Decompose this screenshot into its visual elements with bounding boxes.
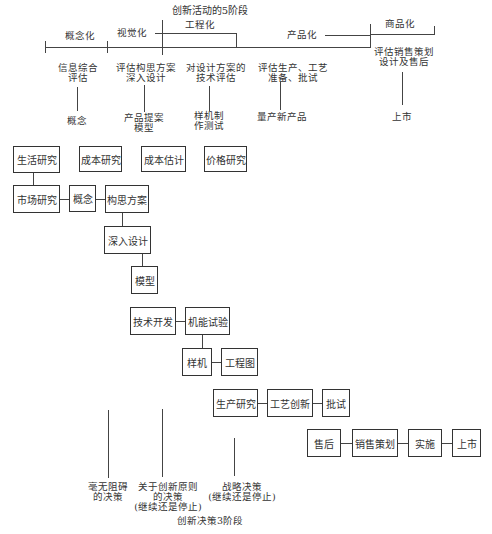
timeline-title: 创新活动的5阶段: [150, 6, 270, 16]
connector-prototype-drawing: [212, 362, 221, 363]
box-cost-estimate: 成本估计: [141, 146, 186, 172]
box-life-research: 生活研究: [13, 146, 60, 173]
decision-label-2: 关于创新原则 的决策 (继续还是停止): [133, 482, 203, 512]
activity-top-5: 评估销售策划 设计及售后: [368, 47, 440, 67]
decisions-title: 创新决策3阶段: [170, 516, 250, 526]
phase-label-visual: 视觉化: [112, 28, 152, 38]
connector-process-trial: [313, 403, 322, 404]
commercial-bracket-end: [434, 26, 435, 35]
activity-connector-1: [77, 87, 78, 111]
engineering-bracket-top: [162, 33, 236, 34]
commercial-bracket: [370, 34, 435, 35]
box-prototype: 样机: [182, 348, 212, 376]
connector-function-prototype: [202, 335, 203, 348]
connector-production-process: [258, 403, 267, 404]
box-after-sales: 售后: [307, 429, 341, 457]
activity-connector-4: [280, 82, 281, 110]
timeline-tick-3: [162, 20, 163, 55]
decision-label-1: 毫无阻碍 的决策: [80, 482, 136, 502]
activity-bottom-4: 量产新产品: [252, 112, 312, 122]
box-launch: 上市: [452, 429, 481, 457]
connector-market-concept: [60, 199, 69, 200]
timeline-tick-2: [107, 41, 108, 53]
connector-concept-plan: [96, 199, 105, 200]
connector-deep-model: [142, 254, 143, 266]
production-line: [295, 47, 370, 48]
activity-connector-2: [144, 85, 145, 112]
box-implementation: 实施: [408, 429, 442, 457]
commercial-tick: [370, 24, 371, 48]
activity-top-3: 对设计方案的 技术评估: [180, 63, 252, 83]
decision-line-3: [234, 438, 235, 476]
box-deep-design: 深入设计: [104, 226, 151, 254]
phase-label-concept: 概念化: [60, 31, 100, 41]
connector-aftersales-sales: [341, 443, 352, 444]
activity-connector-3: [209, 86, 210, 111]
engineering-bracket-end: [236, 33, 237, 47]
activity-top-2: 评估构思方案 深入设计: [110, 63, 182, 83]
connector-life-market: [33, 173, 34, 185]
box-price-research: 价格研究: [204, 146, 247, 172]
activity-top-4: 评估生产、工艺 准备、批试: [252, 63, 334, 83]
box-production-research: 生产研究: [213, 389, 258, 417]
production-label-line: [325, 35, 370, 36]
connector-sales-implement: [398, 443, 408, 444]
visual-connector: [155, 33, 163, 34]
box-market-research: 市场研究: [13, 185, 60, 213]
decision-line-1: [108, 410, 109, 478]
decision-label-3: 战略决策 (继续还是停止): [206, 482, 278, 502]
connector-plan-deep: [122, 213, 123, 226]
connector-tech-function: [176, 321, 185, 322]
activity-top-1: 信息综合 评估: [45, 63, 111, 83]
connector-implement-launch: [442, 443, 452, 444]
box-tech-dev: 技术开发: [130, 307, 176, 335]
box-trial-production: 批试: [322, 389, 350, 417]
phase-label-production: 产品化: [282, 30, 322, 40]
activity-bottom-5: 上市: [382, 112, 422, 122]
activity-bottom-2: 产品提案 模型: [118, 113, 170, 133]
activity-bottom-1: 概念: [55, 116, 99, 126]
box-cost-research: 成本研究: [79, 146, 122, 172]
activity-bottom-3: 样机制 作测试: [186, 111, 232, 131]
activity-connector-5: [402, 72, 403, 105]
box-concept: 概念: [69, 185, 96, 212]
box-model: 模型: [131, 266, 158, 294]
timeline-tick-start: [45, 41, 46, 53]
box-function-test: 机能试验: [185, 307, 230, 335]
phase-label-engineering: 工程化: [180, 20, 220, 30]
decision-line-2: [162, 409, 163, 477]
box-engineering-drawing: 工程图: [221, 348, 258, 376]
timeline-axis: [45, 47, 295, 48]
box-sales-planning: 销售策划: [352, 429, 398, 457]
phase-label-commercial: 商品化: [380, 19, 420, 29]
box-concept-plan: 构思方案: [105, 185, 149, 213]
box-process-innovation: 工艺创新: [267, 389, 313, 417]
